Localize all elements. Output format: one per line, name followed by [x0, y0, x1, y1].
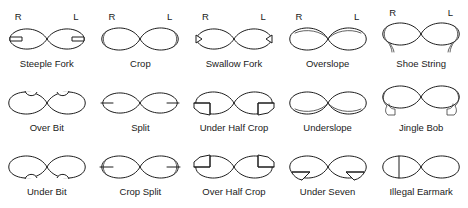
earmark-label-over-bit: Over Bit	[30, 122, 64, 134]
earmark-cell-crop: R L Crop	[94, 8, 188, 70]
diagram-crop	[96, 22, 184, 56]
earmark-label-crop-split: Crop Split	[120, 186, 162, 198]
earmark-label-illegal-earmark: Illegal Earmark	[389, 186, 452, 198]
earmark-grid: R L Steeple Fork R L Crop	[0, 0, 468, 208]
earmark-cell-shoe-string: R L Shoe String	[374, 8, 468, 70]
earmark-label-over-half-crop: Over Half Crop	[202, 186, 265, 198]
diagram-jingle-bob	[377, 82, 465, 120]
right-ear-label: R	[15, 12, 22, 22]
diagram-over-half-crop	[190, 150, 278, 184]
earmark-label-shoe-string: Shoe String	[396, 58, 446, 70]
earmark-cell-swallow-fork: R L Swallow Fork	[187, 8, 281, 70]
earmark-cell-under-half-crop: Under Half Crop	[187, 74, 281, 134]
diagram-split	[96, 86, 184, 120]
diagram-shoe-string	[377, 18, 465, 56]
side-labels-crop: R L	[99, 9, 181, 22]
earmark-cell-over-half-crop: Over Half Crop	[187, 138, 281, 198]
left-ear-label: L	[73, 12, 78, 22]
earmark-label-under-bit: Under Bit	[27, 186, 67, 198]
diagram-underslope	[284, 86, 372, 120]
earmark-label-split: Split	[131, 122, 149, 134]
diagram-under-bit	[3, 150, 91, 184]
earmark-cell-split: Split	[94, 74, 188, 134]
right-ear-label: R	[389, 8, 396, 18]
earmark-chart: R L Steeple Fork R L Crop	[0, 0, 468, 208]
diagram-over-bit	[3, 86, 91, 120]
left-ear-label: L	[448, 8, 453, 18]
diagram-overslope	[284, 22, 372, 56]
diagram-crop-split	[96, 150, 184, 184]
diagram-steeple-fork	[3, 22, 91, 56]
left-ear-label: L	[261, 12, 266, 22]
earmark-label-steeple-fork: Steeple Fork	[20, 58, 74, 70]
right-ear-label: R	[202, 12, 209, 22]
earmark-cell-steeple-fork: R L Steeple Fork	[0, 8, 94, 70]
left-ear-label: L	[167, 12, 172, 22]
earmark-label-under-seven: Under Seven	[300, 186, 355, 198]
earmark-label-under-half-crop: Under Half Crop	[200, 122, 269, 134]
earmark-cell-over-bit: Over Bit	[0, 74, 94, 134]
earmark-cell-jingle-bob: Jingle Bob	[374, 74, 468, 134]
right-ear-label: R	[108, 12, 115, 22]
earmark-cell-under-bit: Under Bit	[0, 138, 94, 198]
earmark-cell-overslope: R L Overslope	[281, 8, 375, 70]
earmark-cell-illegal-earmark: Illegal Earmark	[374, 138, 468, 198]
earmark-cell-crop-split: Crop Split	[94, 138, 188, 198]
earmark-label-underslope: Underslope	[303, 122, 352, 134]
earmark-label-jingle-bob: Jingle Bob	[399, 122, 443, 134]
left-ear-label: L	[354, 12, 359, 22]
diagram-under-half-crop	[190, 86, 278, 120]
side-labels-swallow-fork: R L	[193, 9, 275, 22]
earmark-label-overslope: Overslope	[306, 58, 349, 70]
right-ear-label: R	[296, 12, 303, 22]
diagram-illegal-earmark	[377, 150, 465, 184]
side-labels-shoe-string: R L	[380, 8, 462, 18]
diagram-swallow-fork	[190, 22, 278, 56]
earmark-label-swallow-fork: Swallow Fork	[206, 58, 263, 70]
earmark-cell-under-seven: Under Seven	[281, 138, 375, 198]
earmark-cell-underslope: Underslope	[281, 74, 375, 134]
earmark-label-crop: Crop	[130, 58, 151, 70]
side-labels-overslope: R L	[287, 9, 369, 22]
side-labels-steeple-fork: R L	[6, 9, 88, 22]
diagram-under-seven	[284, 150, 372, 184]
